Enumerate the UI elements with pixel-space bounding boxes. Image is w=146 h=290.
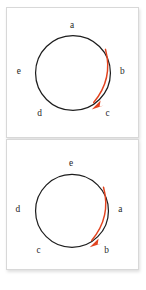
circle-diagram-bottom-svg: e a b c d [7, 140, 138, 269]
node-label-b-bottom: b [104, 245, 109, 255]
node-label-b-top: b [120, 66, 125, 76]
circle-ring-bottom [36, 174, 109, 247]
node-label-c-top: c [105, 108, 109, 118]
node-label-e-top: e [17, 66, 21, 76]
node-label-a-top: a [70, 20, 75, 30]
node-label-d-bottom: d [15, 204, 20, 214]
circle-diagram-panel-bottom: e a b c d [6, 139, 139, 270]
node-label-c-bottom: c [36, 245, 40, 255]
node-label-d-top: d [37, 108, 42, 118]
node-label-e-bottom: e [69, 158, 73, 168]
circle-ring-top [36, 36, 111, 111]
diagram-stage: a b c d e e a b c d [0, 0, 146, 290]
rotation-arrow-bottom [92, 187, 106, 240]
rotation-arrow-top [94, 49, 108, 102]
circle-diagram-panel-top: a b c d e [6, 7, 139, 138]
node-label-a-bottom: a [118, 204, 123, 214]
circle-diagram-top-svg: a b c d e [7, 8, 138, 137]
